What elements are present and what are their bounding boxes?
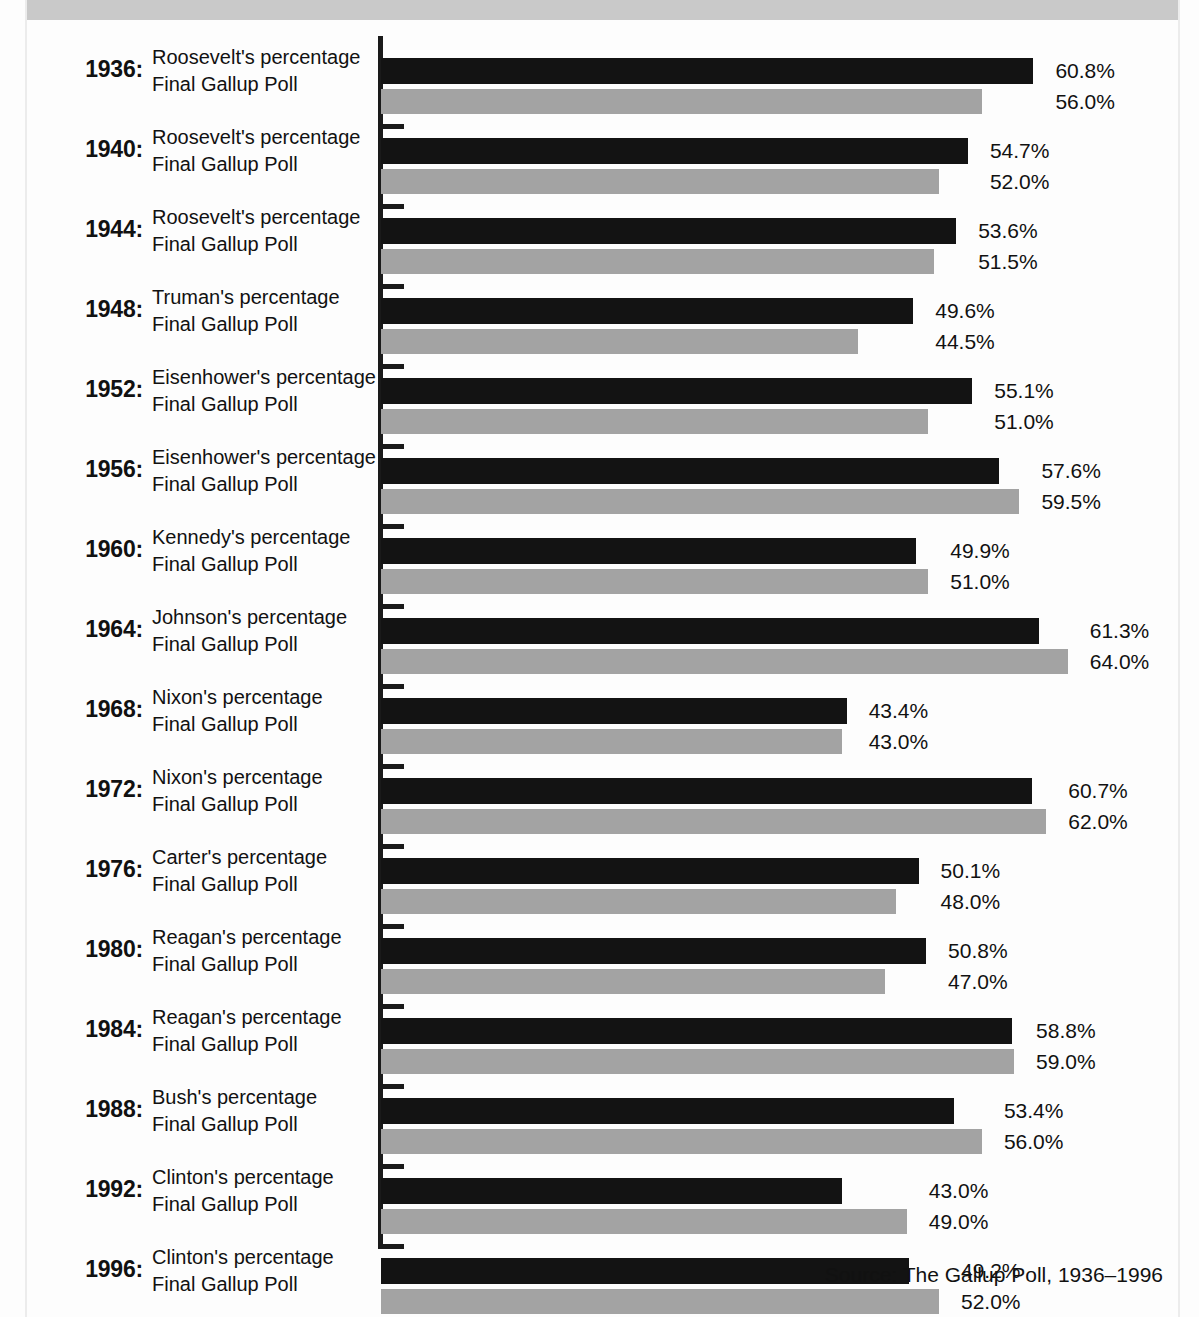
year-label: 1980: (48, 936, 143, 963)
candidate-value-label: 49.6% (935, 298, 995, 324)
poll-series-label: Final Gallup Poll (152, 1031, 374, 1058)
candidate-bar (381, 138, 968, 164)
poll-series-label: Final Gallup Poll (152, 471, 374, 498)
bar-group: 1960:Kennedy's percentageFinal Gallup Po… (0, 516, 1199, 596)
bar-group: 1972:Nixon's percentageFinal Gallup Poll… (0, 756, 1199, 836)
poll-value-label: 59.5% (1041, 489, 1101, 514)
bar-group: 1948:Truman's percentageFinal Gallup Pol… (0, 276, 1199, 356)
chart-page: 1936:Roosevelt's percentageFinal Gallup … (0, 0, 1199, 1317)
poll-value-label: 64.0% (1090, 649, 1150, 674)
candidate-value-label: 53.6% (978, 218, 1038, 244)
candidate-bar (381, 858, 919, 884)
candidate-value-label: 43.0% (929, 1178, 989, 1204)
poll-series-label: Final Gallup Poll (152, 711, 374, 738)
candidate-value-label: 54.7% (990, 138, 1050, 164)
poll-value-label: 51.5% (978, 249, 1038, 274)
series-label-block: Eisenhower's percentageFinal Gallup Poll (152, 364, 374, 418)
candidate-bar (381, 698, 847, 724)
bar-group: 1980:Reagan's percentageFinal Gallup Pol… (0, 916, 1199, 996)
bar-group: 1956:Eisenhower's percentageFinal Gallup… (0, 436, 1199, 516)
poll-series-label: Final Gallup Poll (152, 791, 374, 818)
series-label-block: Clinton's percentageFinal Gallup Poll (152, 1244, 374, 1298)
year-label: 1972: (48, 776, 143, 803)
series-label-block: Eisenhower's percentageFinal Gallup Poll (152, 444, 374, 498)
poll-bar (381, 1209, 907, 1234)
poll-bar (381, 649, 1068, 674)
poll-series-label: Final Gallup Poll (152, 871, 374, 898)
year-label: 1996: (48, 1256, 143, 1283)
bar-group: 1952:Eisenhower's percentageFinal Gallup… (0, 356, 1199, 436)
bar-group: 1968:Nixon's percentageFinal Gallup Poll… (0, 676, 1199, 756)
bar-group: 1984:Reagan's percentageFinal Gallup Pol… (0, 996, 1199, 1076)
candidate-bar (381, 538, 916, 564)
source-note: Source: The Gallup Poll, 1936–1996 (825, 1263, 1163, 1287)
bar-group: 1964:Johnson's percentageFinal Gallup Po… (0, 596, 1199, 676)
candidate-series-label: Nixon's percentage (152, 684, 374, 711)
series-label-block: Roosevelt's percentageFinal Gallup Poll (152, 44, 374, 98)
candidate-value-label: 49.9% (950, 538, 1010, 564)
poll-bar (381, 169, 939, 194)
candidate-value-label: 50.8% (948, 938, 1008, 964)
poll-bar (381, 889, 896, 914)
candidate-series-label: Carter's percentage (152, 844, 374, 871)
year-label: 1988: (48, 1096, 143, 1123)
bar-group: 1944:Roosevelt's percentageFinal Gallup … (0, 196, 1199, 276)
poll-bar (381, 489, 1019, 514)
poll-series-label: Final Gallup Poll (152, 551, 374, 578)
poll-value-label: 44.5% (935, 329, 995, 354)
series-label-block: Nixon's percentageFinal Gallup Poll (152, 764, 374, 818)
poll-series-label: Final Gallup Poll (152, 1111, 374, 1138)
candidate-value-label: 50.1% (941, 858, 1001, 884)
series-label-block: Clinton's percentageFinal Gallup Poll (152, 1164, 374, 1218)
poll-series-label: Final Gallup Poll (152, 71, 374, 98)
poll-value-label: 52.0% (990, 169, 1050, 194)
candidate-value-label: 61.3% (1090, 618, 1150, 644)
series-label-block: Nixon's percentageFinal Gallup Poll (152, 684, 374, 738)
year-label: 1940: (48, 136, 143, 163)
poll-bar (381, 89, 982, 114)
series-label-block: Reagan's percentageFinal Gallup Poll (152, 924, 374, 978)
poll-value-label: 59.0% (1036, 1049, 1096, 1074)
poll-value-label: 51.0% (950, 569, 1010, 594)
candidate-series-label: Truman's percentage (152, 284, 374, 311)
poll-value-label: 51.0% (994, 409, 1054, 434)
year-label: 1968: (48, 696, 143, 723)
poll-series-label: Final Gallup Poll (152, 231, 374, 258)
series-label-block: Kennedy's percentageFinal Gallup Poll (152, 524, 374, 578)
candidate-value-label: 55.1% (994, 378, 1054, 404)
candidate-series-label: Reagan's percentage (152, 1004, 374, 1031)
poll-bar (381, 249, 934, 274)
bar-group: 1988:Bush's percentageFinal Gallup Poll5… (0, 1076, 1199, 1156)
candidate-bar (381, 938, 926, 964)
poll-value-label: 49.0% (929, 1209, 989, 1234)
series-label-block: Johnson's percentageFinal Gallup Poll (152, 604, 374, 658)
candidate-series-label: Roosevelt's percentage (152, 44, 374, 71)
year-label: 1948: (48, 296, 143, 323)
candidate-series-label: Nixon's percentage (152, 764, 374, 791)
bar-group: 1940:Roosevelt's percentageFinal Gallup … (0, 116, 1199, 196)
candidate-value-label: 60.8% (1055, 58, 1115, 84)
candidate-bar (381, 298, 913, 324)
series-label-block: Truman's percentageFinal Gallup Poll (152, 284, 374, 338)
year-label: 1976: (48, 856, 143, 883)
poll-series-label: Final Gallup Poll (152, 391, 374, 418)
poll-series-label: Final Gallup Poll (152, 311, 374, 338)
candidate-value-label: 43.4% (869, 698, 929, 724)
candidate-series-label: Reagan's percentage (152, 924, 374, 951)
poll-bar (381, 969, 885, 994)
bar-group: 1976:Carter's percentageFinal Gallup Pol… (0, 836, 1199, 916)
series-label-block: Roosevelt's percentageFinal Gallup Poll (152, 124, 374, 178)
poll-series-label: Final Gallup Poll (152, 631, 374, 658)
gallup-poll-bar-chart: 1936:Roosevelt's percentageFinal Gallup … (0, 20, 1199, 1317)
candidate-series-label: Eisenhower's percentage (152, 364, 374, 391)
series-label-block: Carter's percentageFinal Gallup Poll (152, 844, 374, 898)
year-label: 1992: (48, 1176, 143, 1203)
series-label-block: Reagan's percentageFinal Gallup Poll (152, 1004, 374, 1058)
poll-series-label: Final Gallup Poll (152, 151, 374, 178)
candidate-value-label: 53.4% (1004, 1098, 1064, 1124)
year-label: 1944: (48, 216, 143, 243)
poll-bar (381, 569, 928, 594)
candidate-bar (381, 618, 1039, 644)
candidate-series-label: Kennedy's percentage (152, 524, 374, 551)
series-label-block: Roosevelt's percentageFinal Gallup Poll (152, 204, 374, 258)
